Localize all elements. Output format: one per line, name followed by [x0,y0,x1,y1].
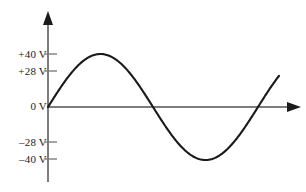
y-label-minus-40: –40 V [19,153,47,165]
y-label-plus-28: +28 V [18,65,47,77]
y-axis-arrowhead [43,11,53,25]
y-label-minus-28: –28 V [19,136,47,148]
y-label-plus-40: +40 V [18,48,47,60]
y-label-zero: 0 V [30,100,47,112]
sine-waveform-figure: +40 V +28 V 0 V –28 V –40 V [0,0,306,192]
x-axis-arrowhead [287,102,301,112]
